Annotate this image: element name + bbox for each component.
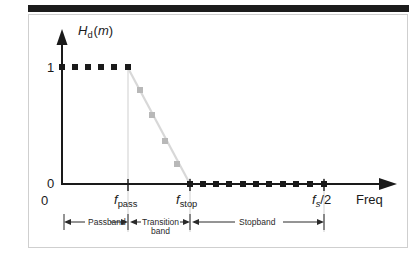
x-origin-label: 0 — [41, 194, 48, 207]
data-point-transition — [137, 87, 143, 93]
figure-canvas: Hd(m) 1 0 0 fpass fstop fs/2 Freq Passba… — [0, 0, 419, 263]
data-point-passband — [111, 64, 117, 70]
x-tick-label-fstop: fstop — [176, 193, 197, 206]
transition-slope-line — [128, 68, 190, 184]
data-point-stopband — [200, 181, 206, 187]
data-point-passband — [98, 64, 104, 70]
data-point-stopband — [187, 181, 193, 187]
data-point-passband — [72, 64, 78, 70]
band-label-passband: Passband — [88, 218, 126, 227]
x-tick-label-fpass: fpass — [114, 193, 137, 206]
data-point-stopband — [240, 181, 246, 187]
axis-ticks — [62, 62, 324, 191]
data-point-stopband — [307, 181, 313, 187]
band-label-transition-line2: band — [142, 227, 179, 236]
data-point-passband — [85, 64, 91, 70]
data-point-transition — [149, 112, 155, 118]
arrowhead-transition-right — [183, 219, 190, 225]
data-point-passband — [59, 64, 65, 70]
x-axis-name-label: Freq — [356, 193, 383, 206]
data-point-transition — [162, 138, 168, 144]
plot-svg — [0, 0, 419, 263]
data-point-passband — [125, 64, 131, 70]
y-axis-label: Hd(m) — [78, 24, 113, 37]
data-point-stopband — [253, 181, 259, 187]
y-axis-arrowhead — [57, 29, 68, 45]
data-point-stopband — [226, 181, 232, 187]
x-tick-label-fs-half: fs/2 — [312, 193, 331, 206]
data-point-stopband — [321, 181, 327, 187]
data-point-transition — [174, 161, 180, 167]
y-axis — [57, 29, 68, 185]
arrowhead-passband-left — [64, 219, 71, 225]
y-tick-label-1: 1 — [47, 61, 54, 74]
arrowhead-stopband-left — [192, 219, 199, 225]
data-point-stopband — [213, 181, 219, 187]
band-label-stopband: Stopband — [239, 218, 275, 227]
y-tick-label-0: 0 — [47, 177, 54, 190]
arrowhead-transition-left — [130, 219, 137, 225]
data-point-stopband — [293, 181, 299, 187]
guide-lines — [128, 67, 324, 232]
arrowhead-stopband-right — [317, 219, 324, 225]
x-axis-arrowhead — [379, 178, 397, 190]
band-label-transition: Transition band — [142, 218, 179, 235]
data-point-stopband — [266, 181, 272, 187]
data-point-stopband — [280, 181, 286, 187]
